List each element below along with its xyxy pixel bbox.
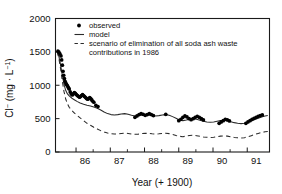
x-axis-title: Year (+ 1900) [132,177,193,188]
observed-point [96,105,100,109]
y-tick-label: 2000 [29,13,50,24]
y-tick-label: 500 [35,113,51,124]
x-tick-label: 91 [251,155,262,166]
x-tick-label: 89 [182,155,193,166]
observed-point [60,58,64,62]
y-axis-unit-exponent: −1 [4,62,11,70]
x-tick-label: 87 [114,155,125,166]
observed-point [62,73,66,77]
chart-legend: observed model scenario of elimination o… [75,21,238,56]
y-axis-unit-open: (mg · L [4,69,15,104]
observed-point [59,54,63,58]
series-observed [56,49,264,125]
y-tick-label: 1500 [29,46,50,57]
y-axis-title-text: Cl− (mg · L−1) [4,58,16,117]
legend-label-observed: observed [89,21,120,30]
x-tick-label: 88 [148,155,159,166]
series-model [57,52,268,124]
x-axis-tick-labels: 868788899091 [80,155,262,166]
legend-label-model: model [89,30,110,39]
chart-svg: 0500100015002000 868788899091 Cl− (mg · … [0,0,282,194]
x-tick-label: 90 [217,155,228,166]
observed-point [228,119,232,123]
observed-point [61,69,65,73]
observed-point [152,114,156,118]
observed-point [202,118,206,122]
y-axis-ticks [56,19,60,153]
legend-marker-observed-dot [77,24,81,28]
y-axis-title: Cl− (mg · L−1) [4,58,16,117]
model-curve [57,52,268,124]
y-tick-label: 1000 [29,80,50,91]
scenario-curve [57,52,268,138]
series-scenario [57,52,268,138]
y-tick-label: 0 [45,146,50,157]
observed-point [92,100,96,104]
chart-figure: 0500100015002000 868788899091 Cl− (mg · … [0,0,282,194]
y-axis-unit-close: ) [4,58,15,61]
observed-point [164,112,168,116]
x-tick-label: 86 [80,155,91,166]
y-axis-tick-labels: 0500100015002000 [29,13,50,158]
observed-point [61,63,65,67]
observed-point [260,113,264,117]
y-axis-species: Cl [4,108,15,117]
legend-label-scenario-line2: contributions in 1986 [89,48,159,57]
